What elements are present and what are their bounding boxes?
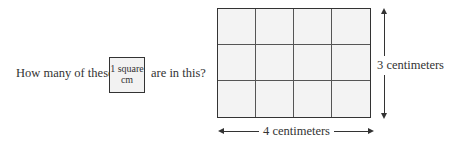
width-label: 4 centimeters: [259, 124, 334, 139]
grid-cell: [332, 9, 370, 45]
grid-cell: [218, 81, 256, 117]
rectangle-grid: [217, 8, 371, 118]
grid-cell: [218, 9, 256, 45]
question-text-start: How many of these: [16, 66, 114, 81]
question-text-end: are in this?: [151, 66, 206, 81]
grid-cell: [294, 81, 332, 117]
grid-cell: [332, 81, 370, 117]
grid-cell: [294, 45, 332, 81]
unit-square-label-line2: cm: [110, 74, 144, 85]
grid-cell: [256, 45, 294, 81]
grid-cell: [256, 81, 294, 117]
unit-square-label-line1: 1 square: [110, 63, 144, 74]
grid-cell: [218, 45, 256, 81]
grid-cell: [332, 45, 370, 81]
grid-cell: [294, 9, 332, 45]
height-label: 3 centimeters: [377, 56, 444, 75]
unit-square: 1 square cm: [109, 57, 145, 93]
grid-cell: [256, 9, 294, 45]
